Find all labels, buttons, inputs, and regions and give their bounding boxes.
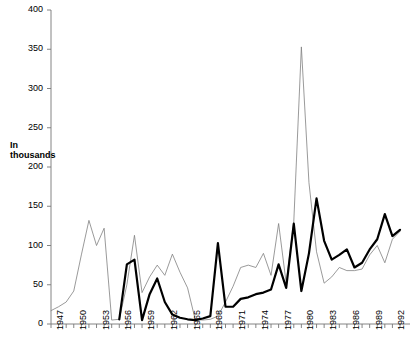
y-axis-title: In thousands <box>10 140 36 160</box>
y-tick-label: 200 <box>17 161 43 171</box>
y-tick-label: 50 <box>17 279 43 289</box>
y-tick-label: 100 <box>17 240 43 250</box>
x-tick-label: 1965 <box>192 310 202 330</box>
x-tick-label: 1977 <box>283 310 293 330</box>
x-tick-label: 1974 <box>260 310 270 330</box>
series-line-thin-series <box>51 47 400 320</box>
x-tick-label: 1980 <box>305 310 315 330</box>
x-tick-label: 1959 <box>146 310 156 330</box>
x-tick-label: 1956 <box>123 310 133 330</box>
y-axis-title-line2: thousands <box>10 150 36 160</box>
x-tick-label: 1962 <box>169 310 179 330</box>
y-axis-title-line1: In <box>10 140 36 150</box>
axes-group <box>47 10 410 328</box>
series-line-thick-series <box>119 198 400 320</box>
x-tick-label: 1950 <box>78 310 88 330</box>
x-tick-label: 1986 <box>351 310 361 330</box>
y-tick-label: 350 <box>17 43 43 53</box>
line-chart: In thousands 050100150200250300350400 19… <box>0 0 413 356</box>
x-tick-label: 1992 <box>396 310 406 330</box>
x-tick-label: 1971 <box>237 310 247 330</box>
y-tick-label: 0 <box>17 318 43 328</box>
x-tick-label: 1968 <box>214 310 224 330</box>
y-tick-label: 150 <box>17 200 43 210</box>
y-tick-label: 300 <box>17 83 43 93</box>
x-tick-label: 1989 <box>374 310 384 330</box>
plot-area <box>0 0 413 356</box>
x-tick-label: 1953 <box>101 310 111 330</box>
series-group <box>51 47 400 320</box>
x-tick-label: 1947 <box>55 310 65 330</box>
y-tick-label: 400 <box>17 4 43 14</box>
y-tick-label: 250 <box>17 122 43 132</box>
x-tick-label: 1983 <box>328 310 338 330</box>
